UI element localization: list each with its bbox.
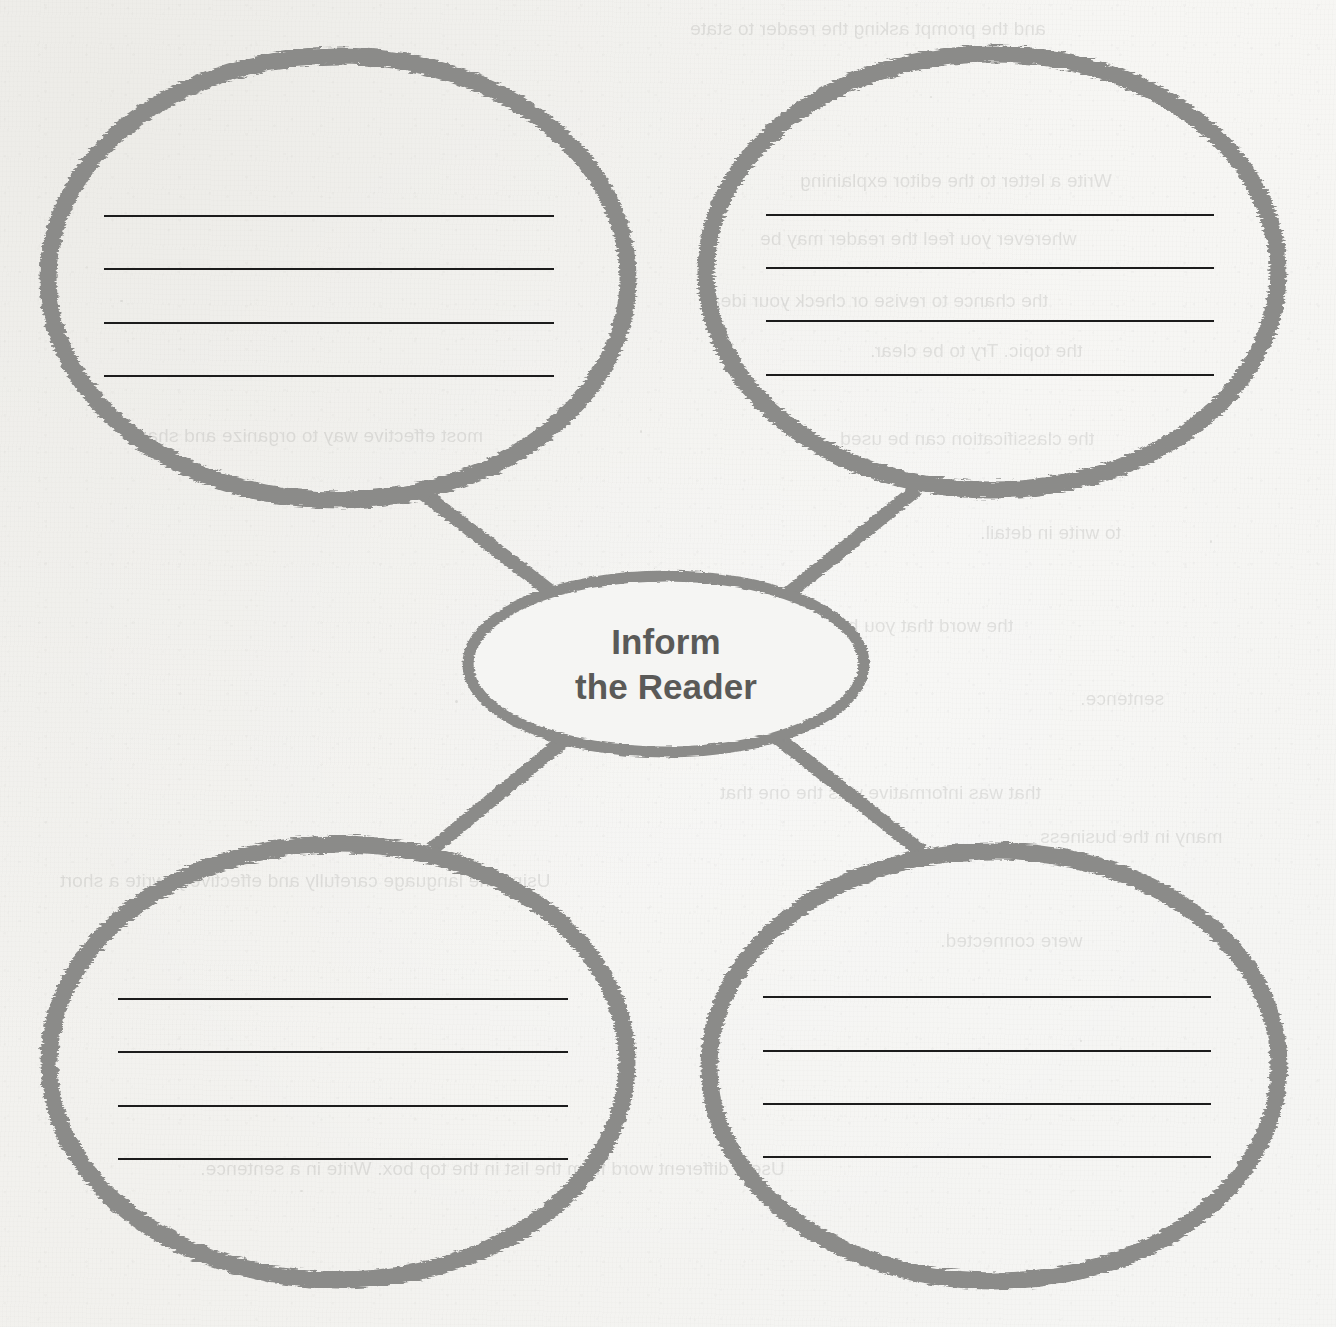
writing-line[interactable] [104,268,554,270]
center-oval[interactable]: Inform the Reader [440,550,900,780]
branch-oval-top-left[interactable] [0,0,700,560]
writing-line[interactable] [763,996,1211,998]
writing-line[interactable] [118,1105,568,1107]
oval-outline [49,844,627,1280]
writing-line[interactable] [766,374,1214,376]
writing-line[interactable] [763,1103,1211,1105]
branch-oval-bottom-left[interactable] [0,830,700,1327]
branch-oval-top-right[interactable] [660,0,1336,560]
oval-outline [706,54,1278,490]
writing-line[interactable] [763,1050,1211,1052]
oval-outline [48,56,628,500]
writing-line[interactable] [766,214,1214,216]
bleed-text-line: that was informative was the one that [720,782,1041,804]
worksheet-page: and the prompt asking the reader to stat… [0,0,1336,1327]
branch-oval-bottom-right[interactable] [660,838,1336,1327]
bleed-text-line: sentence. [1080,688,1164,710]
center-label-line-2: the Reader [575,664,757,710]
writing-line[interactable] [104,322,554,324]
writing-line[interactable] [104,375,554,377]
writing-line[interactable] [118,1158,568,1160]
writing-line[interactable] [766,320,1214,322]
center-label-line-1: Inform [611,619,720,665]
writing-line[interactable] [763,1156,1211,1158]
oval-outline [709,851,1279,1281]
writing-line[interactable] [766,267,1214,269]
writing-line[interactable] [104,215,554,217]
writing-line[interactable] [118,998,568,1000]
center-oval-label: Inform the Reader [468,576,864,752]
writing-line[interactable] [118,1051,568,1053]
